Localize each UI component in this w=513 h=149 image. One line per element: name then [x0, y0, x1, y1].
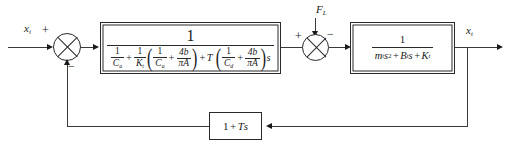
plant-denominator: mts2 + Bts + Kt	[372, 47, 434, 61]
compensator-transfer-function: 1 1 Ca + 1 Kt ( 1 Ca + 4b	[107, 27, 273, 69]
plus-1: +	[126, 52, 132, 63]
plus-2: +	[169, 52, 175, 63]
compensator-input-arrowhead	[93, 44, 99, 50]
feedback-bottom-right-line	[268, 126, 468, 127]
compensator-denominator: 1 Ca + 1 Kt ( 1 Ca + 4b πA )	[107, 45, 273, 69]
summer2-minus-sign: −	[327, 28, 334, 40]
input-plus-sign: +	[42, 24, 49, 36]
term-4b-over-piA-1: 4b πA	[177, 48, 192, 69]
term-4b-over-piA-2: 4b πA	[245, 48, 260, 69]
term-1-over-Cd: 1 Cd	[222, 47, 235, 69]
feedback-expression: 1 + Ts	[223, 120, 248, 132]
laplace-s-1: s	[267, 52, 271, 63]
output-line	[455, 47, 500, 48]
term-1-over-Ca-inner: 1 Ca	[153, 47, 166, 69]
feedback-block: 1 + Ts	[209, 112, 262, 140]
input-summing-junction	[53, 33, 81, 61]
disturbance-label: FL	[316, 3, 327, 16]
plus-3: +	[199, 52, 205, 63]
control-system-block-diagram: xi + − 1 1 Ca + 1 Kt (	[0, 0, 513, 149]
input-signal-label: xi	[24, 22, 31, 35]
compensator-block: 1 1 Ca + 1 Kt ( 1 Ca + 4b	[100, 22, 281, 74]
term-1-over-Ca: 1 Ca	[111, 47, 124, 69]
plus-4: +	[237, 52, 243, 63]
feedback-block-input-arrowhead	[266, 123, 272, 129]
period-symbol-T: T	[207, 52, 213, 63]
plant-transfer-function: 1 mts2 + Bts + Kt	[372, 34, 434, 61]
output-signal-label: xt	[466, 24, 473, 37]
input-line	[8, 47, 49, 48]
feedback-bottom-left-line	[67, 126, 209, 127]
term-1-over-Kt: 1 Kt	[134, 47, 146, 69]
feedback-summer-arrowhead	[64, 59, 70, 65]
output-arrowhead	[497, 44, 503, 50]
feedback-up-line	[67, 64, 68, 126]
plant-block: 1 mts2 + Bts + Kt	[350, 22, 455, 74]
disturbance-summing-junction	[302, 34, 329, 61]
plant-numerator: 1	[397, 34, 409, 47]
feedback-down-line	[467, 47, 468, 126]
summer2-plus-sign: +	[295, 30, 302, 42]
compensator-numerator: 1	[183, 27, 197, 45]
